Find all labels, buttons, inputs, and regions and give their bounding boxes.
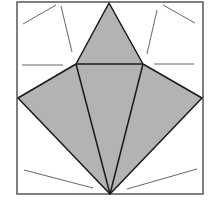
guide-line (61, 6, 72, 52)
geometric-diagram (0, 0, 215, 209)
shaded-kite-shape (18, 3, 202, 194)
guide-line (127, 169, 197, 189)
guide-line (163, 5, 195, 23)
guide-line (147, 10, 157, 54)
guide-line (23, 5, 56, 24)
guide-line (24, 170, 93, 188)
